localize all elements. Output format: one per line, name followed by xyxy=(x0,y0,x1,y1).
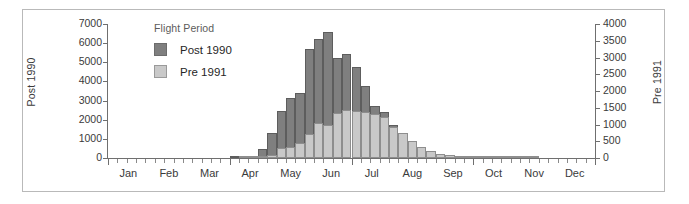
x-tick-mark xyxy=(352,159,353,165)
legend-title: Flight Period xyxy=(154,22,304,34)
right-tick-label: 1500 xyxy=(603,101,649,113)
bar-group xyxy=(361,86,370,158)
x-tick-mark xyxy=(558,159,559,163)
x-tick-mark xyxy=(464,159,465,163)
chart-legend: Flight Period Post 1990 Pre 1991 xyxy=(154,22,304,87)
legend-swatch-pre-1991 xyxy=(154,65,167,78)
legend-swatch-post-1990 xyxy=(154,43,167,56)
bar-group xyxy=(248,156,257,158)
x-tick-mark xyxy=(398,159,399,163)
x-tick-mark xyxy=(117,159,118,163)
x-tick-mark xyxy=(567,159,568,163)
x-tick-mark xyxy=(220,159,221,163)
right-tick-label: 4000 xyxy=(603,17,649,29)
x-tick-mark xyxy=(314,159,315,163)
x-tick-mark xyxy=(361,159,362,163)
bar-segment-pre-1991 xyxy=(455,156,464,158)
bar-segment-pre-1991 xyxy=(352,111,361,158)
month-label-feb: Feb xyxy=(159,167,178,179)
x-tick-mark xyxy=(248,159,249,163)
x-tick-mark xyxy=(370,159,371,163)
x-tick-mark xyxy=(520,159,521,163)
right-tick-label: 500 xyxy=(603,134,649,146)
x-tick-mark xyxy=(576,159,577,163)
bar-group xyxy=(323,32,332,158)
bar-segment-pre-1991 xyxy=(417,147,426,158)
x-tick-mark xyxy=(389,159,390,163)
month-label-aug: Aug xyxy=(403,167,423,179)
left-tick-label: 2000 xyxy=(56,113,102,125)
left-tick-mark xyxy=(103,101,107,102)
left-tick-label: 0 xyxy=(56,151,102,163)
x-tick-mark xyxy=(483,159,484,163)
right-tick-label: 3500 xyxy=(603,34,649,46)
bar-segment-pre-1991 xyxy=(436,154,445,158)
bar-group xyxy=(436,154,445,158)
x-tick-mark xyxy=(230,159,231,165)
bar-group xyxy=(286,98,295,158)
x-tick-mark xyxy=(380,159,381,163)
right-tick-mark xyxy=(596,141,600,142)
bar-segment-pre-1991 xyxy=(333,113,342,158)
bar-group xyxy=(473,157,482,158)
x-tick-mark xyxy=(174,159,175,163)
x-tick-mark xyxy=(127,159,128,163)
x-tick-mark xyxy=(455,159,456,163)
bar-group xyxy=(258,149,267,158)
bar-segment-pre-1991 xyxy=(323,125,332,158)
x-tick-mark xyxy=(333,159,334,163)
bar-segment-pre-1991 xyxy=(361,112,370,158)
bar-segment-pre-1991 xyxy=(398,133,407,158)
right-tick-label: 2000 xyxy=(603,84,649,96)
x-tick-mark xyxy=(426,159,427,163)
legend-label-pre-1991: Pre 1991 xyxy=(180,66,227,78)
bar-group xyxy=(408,141,417,158)
bar-segment-pre-1991 xyxy=(389,127,398,158)
right-tick-label: 1000 xyxy=(603,118,649,130)
left-tick-label: 1000 xyxy=(56,132,102,144)
bar-group xyxy=(314,39,323,158)
x-tick-mark xyxy=(529,159,530,163)
bar-group xyxy=(398,133,407,158)
month-label-jan: Jan xyxy=(119,167,137,179)
bar-segment-pre-1991 xyxy=(445,155,454,158)
left-tick-label: 5000 xyxy=(56,55,102,67)
right-tick-mark xyxy=(596,58,600,59)
bar-segment-pre-1991 xyxy=(529,156,538,158)
x-tick-mark xyxy=(183,159,184,163)
left-tick-mark xyxy=(103,24,107,25)
bar-group xyxy=(370,106,379,158)
bar-group xyxy=(333,58,342,158)
right-tick-mark xyxy=(596,41,600,42)
left-tick-mark xyxy=(103,62,107,63)
x-tick-mark xyxy=(511,159,512,163)
x-tick-mark xyxy=(136,159,137,163)
right-tick-label: 0 xyxy=(603,151,649,163)
bar-segment-pre-1991 xyxy=(426,151,435,158)
bar-group xyxy=(342,54,351,158)
right-tick-mark xyxy=(596,74,600,75)
month-label-may: May xyxy=(280,167,301,179)
bar-group xyxy=(305,49,314,158)
x-tick-mark xyxy=(145,159,146,163)
x-tick-mark xyxy=(239,159,240,163)
x-tick-mark xyxy=(277,159,278,163)
legend-item-pre-1991: Pre 1991 xyxy=(154,65,304,78)
month-label-mar: Mar xyxy=(200,167,219,179)
left-tick-mark xyxy=(103,158,107,159)
bar-group xyxy=(455,156,464,158)
month-label-nov: Nov xyxy=(524,167,544,179)
bar-segment-pre-1991 xyxy=(286,147,295,158)
x-tick-mark xyxy=(408,159,409,163)
x-tick-mark xyxy=(548,159,549,163)
right-tick-label: 3000 xyxy=(603,51,649,63)
bar-group xyxy=(464,157,473,158)
x-tick-mark xyxy=(108,159,109,165)
legend-label-post-1990: Post 1990 xyxy=(180,44,232,56)
left-tick-label: 3000 xyxy=(56,94,102,106)
month-label-sep: Sep xyxy=(443,167,463,179)
right-tick-mark xyxy=(596,158,600,159)
x-tick-mark xyxy=(202,159,203,163)
bar-group xyxy=(380,112,389,158)
bar-segment-pre-1991 xyxy=(239,156,248,158)
